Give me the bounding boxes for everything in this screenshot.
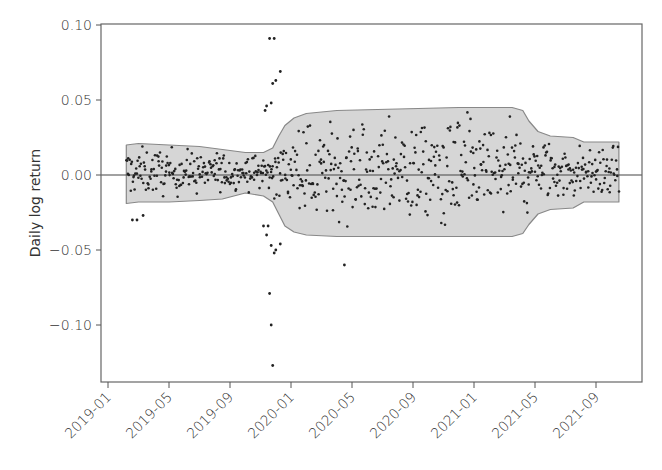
data-point	[584, 163, 587, 166]
data-point	[283, 150, 286, 153]
data-point	[422, 150, 425, 153]
data-point	[331, 132, 334, 135]
data-point	[379, 191, 382, 194]
data-point	[317, 150, 320, 153]
data-point	[564, 156, 567, 159]
data-point	[487, 189, 490, 192]
data-point	[437, 187, 440, 190]
data-point	[278, 195, 281, 198]
data-point	[449, 126, 452, 129]
data-point	[287, 192, 290, 195]
data-point	[616, 175, 619, 178]
data-point	[323, 144, 326, 147]
data-point	[454, 203, 457, 206]
data-point	[421, 127, 424, 130]
data-point	[213, 159, 216, 162]
data-point	[272, 175, 275, 178]
data-point	[382, 162, 385, 165]
data-point	[156, 175, 159, 178]
data-point	[327, 150, 330, 153]
data-point	[140, 163, 143, 166]
data-point	[615, 159, 618, 162]
data-point	[305, 179, 308, 182]
data-point	[303, 192, 306, 195]
data-point	[503, 168, 506, 171]
data-point	[128, 174, 131, 177]
data-point	[349, 135, 352, 138]
y-tick-label: −0.05	[49, 242, 92, 258]
data-point	[579, 187, 582, 190]
data-point	[432, 184, 435, 187]
data-point	[173, 170, 176, 173]
data-point	[353, 153, 356, 156]
data-point	[235, 188, 238, 191]
data-point	[285, 152, 288, 155]
data-point	[359, 183, 362, 186]
data-point	[260, 164, 263, 167]
data-point	[396, 168, 399, 171]
data-point	[410, 204, 413, 207]
data-point	[440, 198, 443, 201]
data-point	[291, 174, 294, 177]
data-point	[198, 165, 201, 168]
data-point	[204, 181, 207, 184]
data-point	[401, 176, 404, 179]
data-point	[312, 183, 315, 186]
data-point	[523, 200, 526, 203]
data-point	[302, 131, 305, 134]
outlier-point	[262, 225, 265, 228]
data-point	[219, 191, 222, 194]
data-point	[546, 151, 549, 154]
data-point	[447, 127, 450, 130]
data-point	[524, 162, 527, 165]
data-point	[492, 132, 495, 135]
data-point	[415, 134, 418, 137]
data-point	[326, 209, 329, 212]
data-point	[341, 200, 344, 203]
data-point	[420, 171, 423, 174]
data-point	[175, 186, 178, 189]
outlier-point	[273, 37, 276, 40]
data-point	[446, 190, 449, 193]
data-point	[335, 183, 338, 186]
data-point	[527, 183, 530, 186]
data-point	[153, 168, 156, 171]
data-point	[380, 134, 383, 137]
data-point	[471, 194, 474, 197]
data-point	[273, 197, 276, 200]
data-point	[434, 164, 437, 167]
data-point	[438, 154, 441, 157]
data-point	[503, 146, 506, 149]
data-point	[277, 157, 280, 160]
data-point	[394, 136, 397, 139]
data-point	[254, 155, 257, 158]
data-point	[334, 164, 337, 167]
data-point	[557, 194, 560, 197]
data-point	[538, 184, 541, 187]
data-point	[512, 176, 515, 179]
outlier-point	[271, 364, 274, 367]
data-point	[605, 165, 608, 168]
data-point	[523, 181, 526, 184]
data-point	[262, 159, 265, 162]
outlier-point	[274, 79, 277, 82]
data-point	[573, 194, 576, 197]
outlier-point	[279, 70, 282, 73]
data-point	[236, 175, 239, 178]
data-point	[429, 199, 432, 202]
data-point	[468, 130, 471, 133]
data-point	[406, 179, 409, 182]
data-point	[274, 157, 277, 160]
data-point	[597, 187, 600, 190]
data-point	[336, 137, 339, 140]
data-point	[360, 195, 363, 198]
data-point	[141, 145, 144, 148]
data-point	[369, 169, 372, 172]
data-point	[599, 161, 602, 164]
data-point	[478, 140, 481, 143]
data-point	[498, 169, 501, 172]
data-point	[320, 158, 323, 161]
data-point	[583, 177, 586, 180]
data-point	[554, 163, 557, 166]
data-point	[380, 178, 383, 181]
